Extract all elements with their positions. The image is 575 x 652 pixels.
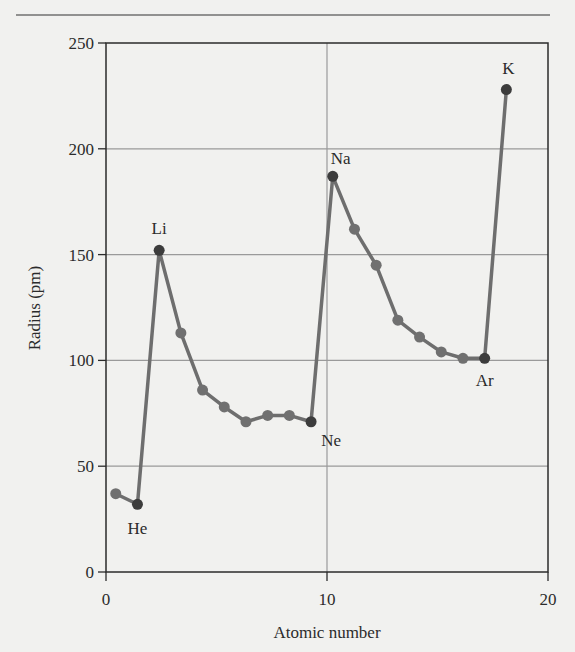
y-tick-label: 200 <box>69 140 95 159</box>
data-point-he <box>132 499 143 510</box>
element-label-na: Na <box>331 149 351 168</box>
x-axis-title: Atomic number <box>273 623 381 642</box>
y-axis-ticks: 050100150200250 <box>69 34 107 582</box>
data-point-h <box>110 488 121 499</box>
data-point-p <box>414 332 425 343</box>
data-point-si <box>392 315 403 326</box>
x-axis-ticks: 01020 <box>102 572 557 609</box>
y-tick-label: 250 <box>69 34 95 53</box>
element-label-ne: Ne <box>321 431 341 450</box>
data-point-o <box>262 410 273 421</box>
radius-series-line <box>116 90 507 505</box>
y-axis-title: Radius (pm) <box>25 266 44 351</box>
x-tick-label: 20 <box>540 590 557 609</box>
grid-lines <box>106 43 548 572</box>
element-label-li: Li <box>152 219 167 238</box>
data-point-li <box>154 245 165 256</box>
element-label-k: K <box>502 59 515 78</box>
data-point-f <box>284 410 295 421</box>
y-tick-label: 100 <box>69 351 95 370</box>
data-point-na <box>327 171 338 182</box>
data-point-be <box>175 327 186 338</box>
x-tick-label: 10 <box>319 590 336 609</box>
element-label-ar: Ar <box>476 371 494 390</box>
y-tick-label: 0 <box>86 563 95 582</box>
atomic-radius-chart: 050100150200250 01020 HeLiNeNaArK Atomic… <box>0 0 575 652</box>
data-point-al <box>371 260 382 271</box>
y-tick-label: 50 <box>77 457 94 476</box>
data-point-mg <box>349 224 360 235</box>
data-point-cl <box>457 353 468 364</box>
element-label-he: He <box>128 519 148 538</box>
y-tick-label: 150 <box>69 246 95 265</box>
data-point-c <box>219 401 230 412</box>
data-point-s <box>436 346 447 357</box>
data-point-ne <box>306 416 317 427</box>
x-tick-label: 0 <box>102 590 111 609</box>
data-point-b <box>197 385 208 396</box>
data-point-ar <box>479 353 490 364</box>
data-point-k <box>501 84 512 95</box>
data-point-n <box>240 416 251 427</box>
